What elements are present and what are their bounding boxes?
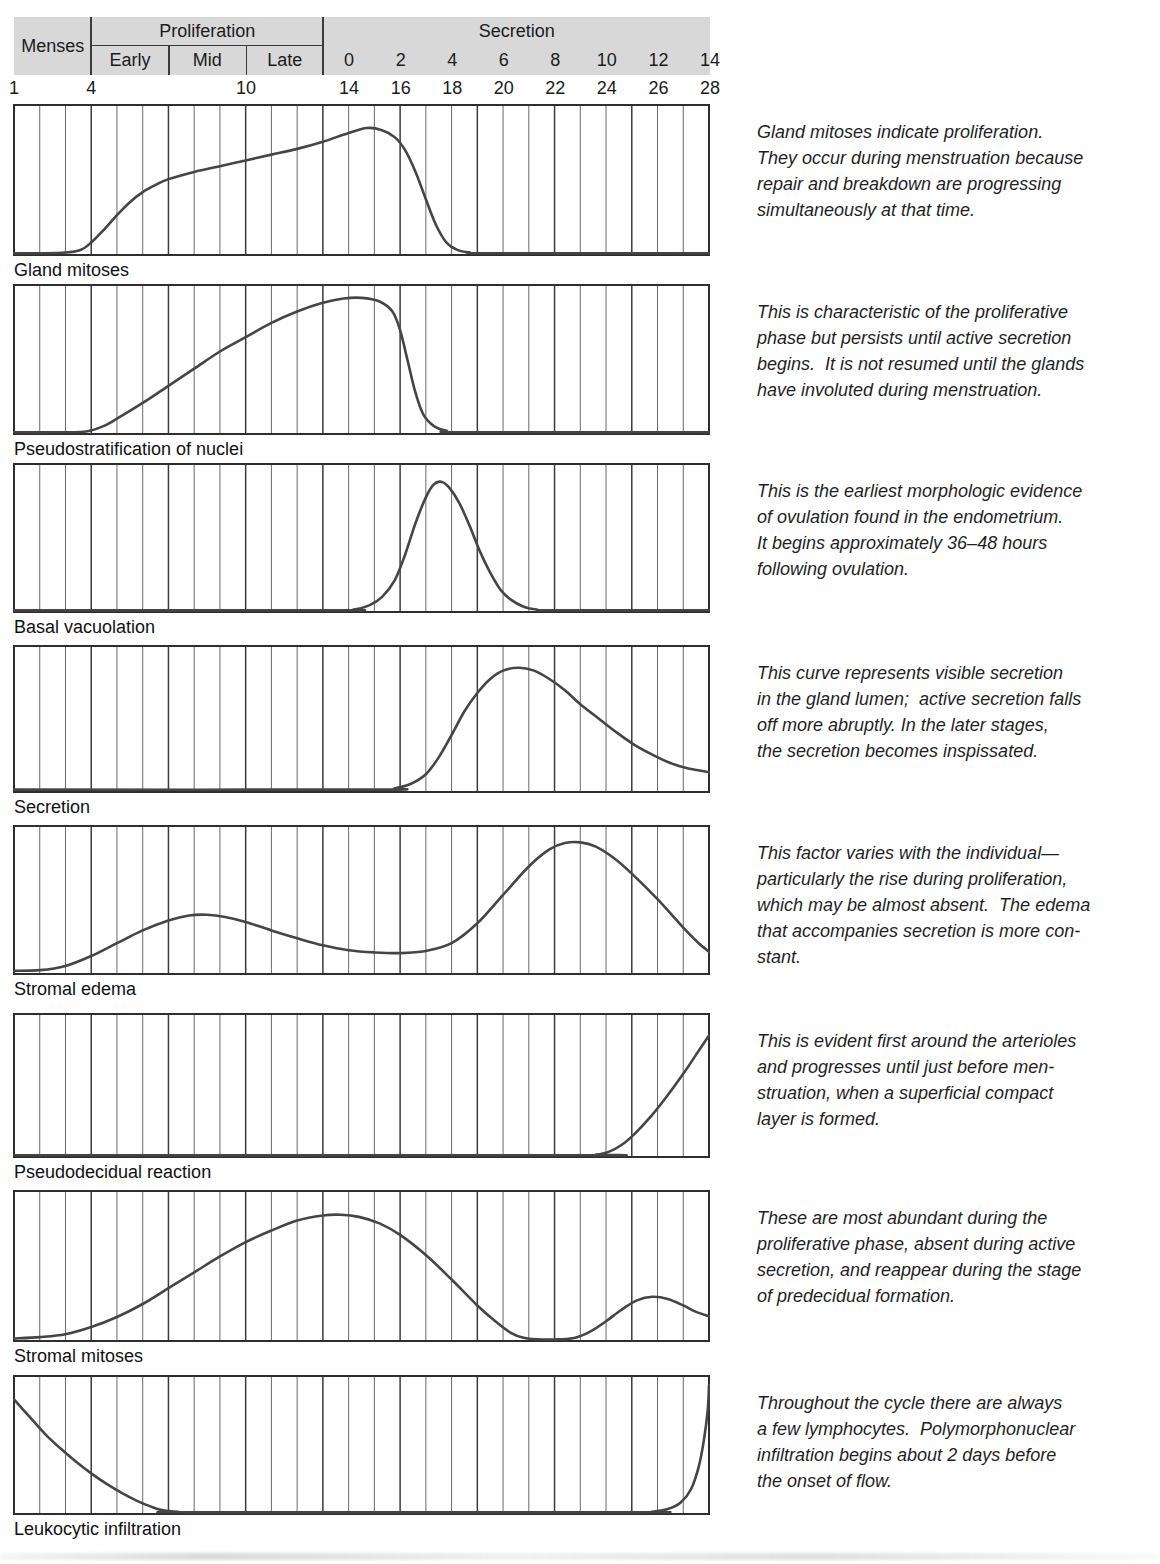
phase-divider-line [168, 46, 169, 75]
chart-frame [14, 464, 709, 612]
chart-label: Stromal edema [14, 979, 136, 1000]
description-line: It begins approximately 36–48 hours [757, 530, 1082, 556]
chart-description: This curve represents visible secretioni… [757, 660, 1081, 764]
chart-canvas-secretion [13, 645, 710, 793]
chart-row: Leukocytic infiltrationThroughout the cy… [0, 1375, 1160, 1547]
description-line: secretion, and reappear during the stage [757, 1257, 1081, 1283]
chart-canvas-leukocytic-infiltration [13, 1375, 710, 1515]
description-line: Throughout the cycle there are always [757, 1390, 1075, 1416]
axis-tick-label: 26 [648, 78, 668, 100]
description-line: This factor varies with the individual— [757, 840, 1090, 866]
axis-tick-label: 14 [700, 50, 720, 72]
description-line: that accompanies secretion is more con- [757, 918, 1090, 944]
description-line: have involuted during menstruation. [757, 377, 1084, 403]
axis-tick-label: 24 [597, 78, 617, 100]
chart-canvas-stromal-mitoses [13, 1190, 710, 1342]
description-line: This is the earliest morphologic evidenc… [757, 478, 1082, 504]
phase-cell-proliferation: Proliferation [91, 17, 323, 46]
chart-description: This is the earliest morphologic evidenc… [757, 478, 1082, 582]
description-line: which may be almost absent. The edema [757, 892, 1090, 918]
description-line: begins. It is not resumed until the glan… [757, 351, 1084, 377]
description-line: proliferative phase, absent during activ… [757, 1231, 1081, 1257]
description-line: the onset of flow. [757, 1468, 1075, 1494]
chart-row: Gland mitosesGland mitoses indicate prol… [0, 104, 1160, 288]
description-line: They occur during menstruation because [757, 145, 1083, 171]
description-line: This is characteristic of the proliferat… [757, 299, 1084, 325]
axis-tick-label: 4 [447, 50, 457, 72]
axis-tick-label: 4 [86, 78, 96, 100]
data-curve [14, 482, 709, 611]
chart-canvas-basal-vacuolation [13, 463, 710, 613]
data-curve [14, 1215, 709, 1340]
axis-tick-label: 8 [550, 50, 560, 72]
axis-tick-label: 2 [396, 50, 406, 72]
data-curve [14, 128, 709, 253]
chart-description: This is evident first around the arterio… [757, 1028, 1076, 1132]
description-line: This curve represents visible secretion [757, 660, 1081, 686]
data-curve [14, 842, 709, 971]
phase-cell-secretion: Secretion [323, 17, 710, 46]
axis-tick-label: 18 [442, 78, 462, 100]
description-line: particularly the rise during proliferati… [757, 866, 1090, 892]
chart-label: Leukocytic infiltration [14, 1519, 181, 1540]
axis-tick-label: 20 [494, 78, 514, 100]
data-curve [14, 668, 709, 790]
description-line: Gland mitoses indicate proliferation. [757, 119, 1083, 145]
chart-frame [14, 646, 709, 792]
chart-canvas-pseudodecidual-reaction [13, 1013, 710, 1158]
description-line: repair and breakdown are progressing [757, 171, 1083, 197]
axis-tick-label: 28 [700, 78, 720, 100]
description-line: layer is formed. [757, 1106, 1076, 1132]
chart-row: Basal vacuolationThis is the earliest mo… [0, 463, 1160, 645]
scan-artifact [0, 1553, 1160, 1560]
chart-canvas-pseudostratification-of-nuclei [13, 284, 710, 435]
axis-tick-label: 12 [648, 50, 668, 72]
description-line: simultaneously at that time. [757, 197, 1083, 223]
chart-label: Basal vacuolation [14, 617, 155, 638]
chart-frame [14, 1014, 709, 1157]
axis-tick-label: 10 [597, 50, 617, 72]
axis-tick-label: 6 [499, 50, 509, 72]
axis-tick-label: 14 [339, 78, 359, 100]
description-line: of ovulation found in the endometrium. [757, 504, 1082, 530]
chart-label: Gland mitoses [14, 260, 129, 281]
phase-cell-mid: Mid [169, 46, 246, 75]
chart-row: Stromal mitosesThese are most abundant d… [0, 1190, 1160, 1374]
data-curve [14, 1385, 709, 1512]
description-line: infiltration begins about 2 days before [757, 1442, 1075, 1468]
chart-description: This factor varies with the individual—p… [757, 840, 1090, 970]
description-line: stant. [757, 944, 1090, 970]
axis-tick-label: 10 [236, 78, 256, 100]
chart-row: Stromal edemaThis factor varies with the… [0, 825, 1160, 1007]
description-line: following ovulation. [757, 556, 1082, 582]
description-line: a few lymphocytes. Polymorphonuclear [757, 1416, 1075, 1442]
chart-row: SecretionThis curve represents visible s… [0, 645, 1160, 825]
chart-frame [14, 285, 709, 434]
description-line: off more abruptly. In the later stages, [757, 712, 1081, 738]
chart-frame [14, 105, 709, 255]
description-line: the secretion becomes inspissated. [757, 738, 1081, 764]
chart-label: Pseudodecidual reaction [14, 1162, 211, 1183]
phase-divider-line [91, 45, 323, 47]
description-line: phase but persists until active secretio… [757, 325, 1084, 351]
chart-description: Gland mitoses indicate proliferation.The… [757, 119, 1083, 223]
chart-row: Pseudodecidual reactionThis is evident f… [0, 1013, 1160, 1190]
chart-label: Pseudostratification of nuclei [14, 439, 243, 460]
description-line: struation, when a superficial compact [757, 1080, 1076, 1106]
endometrial-cycle-figure: Menses Proliferation Early Mid Late Secr… [0, 0, 1160, 1564]
description-line: These are most abundant during the [757, 1205, 1081, 1231]
phase-cell-menses: Menses [14, 17, 91, 75]
chart-label: Secretion [14, 797, 90, 818]
axis-tick-label: 22 [545, 78, 565, 100]
phase-divider-line [246, 46, 247, 75]
axis-tick-label: 1 [9, 78, 19, 100]
chart-frame [14, 1376, 709, 1514]
data-curve [14, 298, 709, 433]
axis-tick-label: 0 [344, 50, 354, 72]
axis-tick-label: 16 [391, 78, 411, 100]
chart-row: Pseudostratification of nucleiThis is ch… [0, 284, 1160, 467]
phase-cell-early: Early [91, 46, 168, 75]
chart-description: Throughout the cycle there are alwaysa f… [757, 1390, 1075, 1494]
chart-canvas-gland-mitoses [13, 104, 710, 256]
description-line: in the gland lumen; active secretion fal… [757, 686, 1081, 712]
